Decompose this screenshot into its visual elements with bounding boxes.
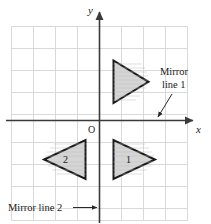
y-axis-label: y xyxy=(87,4,93,16)
triangle-one-label: 1 xyxy=(126,154,131,165)
triangle-two-label: 2 xyxy=(63,154,68,165)
mirror-line-1-annotation: Mirror line 1 xyxy=(158,66,188,117)
mirror-line-1-text-row1: Mirror xyxy=(160,66,188,77)
mirror-line-2-text: Mirror line 2 xyxy=(8,202,62,213)
triangle-two: 2 xyxy=(44,140,86,179)
mirror-line-2-annotation: Mirror line 2 xyxy=(8,202,97,213)
coordinate-plane-svg: y x O xyxy=(0,0,211,224)
coordinate-grid-figure: y x O xyxy=(0,0,211,224)
origin-label: O xyxy=(88,124,95,135)
triangle-one: 1 xyxy=(114,140,156,179)
axes xyxy=(6,12,193,223)
mirror-line-1-text-row2: line 1 xyxy=(162,79,186,90)
x-axis-label: x xyxy=(195,123,201,135)
triangle-one-shape xyxy=(114,140,156,179)
